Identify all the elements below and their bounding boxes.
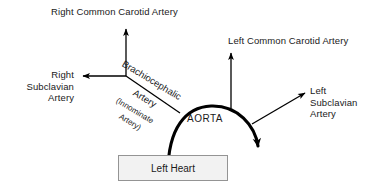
- label-left-common-carotid-artery: Left Common Carotid Artery: [228, 35, 348, 47]
- left-subclavian-arrow: [252, 93, 305, 124]
- label-brachiocephalic-artery-group: Brachiocephalic Artery (Innominate Arter…: [112, 52, 208, 130]
- label-right-common-carotid-artery: Right Common Carotid Artery: [51, 6, 178, 18]
- label-right-subclavian-artery: Right Subclavian Artery: [2, 69, 74, 104]
- left-heart-label: Left Heart: [119, 156, 227, 180]
- label-left-subclavian-artery: Left Subclavian Artery: [310, 85, 357, 120]
- aortic-arch-diagram: Right Common Carotid Artery Left Common …: [0, 0, 373, 187]
- left-heart-box: Left Heart: [118, 155, 228, 181]
